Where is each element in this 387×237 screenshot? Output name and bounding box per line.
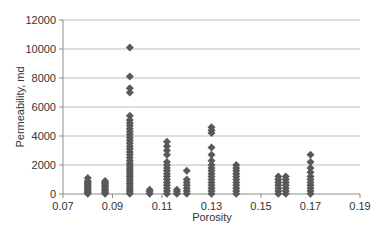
data-point-diamond (126, 84, 134, 92)
y-tick-label: 4000 (32, 130, 56, 142)
y-tick-label: 12000 (25, 14, 56, 26)
x-tick-label: 0.19 (349, 200, 370, 212)
y-tick-label: 6000 (32, 101, 56, 113)
x-tick-label: 0.17 (300, 200, 321, 212)
x-tick-label: 0.07 (52, 200, 73, 212)
data-point-diamond (163, 138, 171, 146)
horizontal-gridlines (63, 20, 360, 165)
data-point-diamond (126, 73, 134, 81)
data-points (84, 44, 315, 198)
y-tick-label: 8000 (32, 72, 56, 84)
x-tick-label: 0.15 (250, 200, 271, 212)
y-axis-tick-labels: 020004000600080001000012000 (25, 14, 56, 200)
x-tick-label: 0.11 (152, 200, 173, 212)
y-tick-label: 2000 (32, 159, 56, 171)
data-point-diamond (183, 167, 191, 175)
scatter-chart: 020004000600080001000012000 0.070.090.11… (0, 0, 387, 237)
y-tick-label: 0 (50, 188, 56, 200)
x-axis-title: Porosity (192, 211, 232, 223)
data-point-diamond (126, 44, 134, 52)
x-tick-label: 0.09 (102, 200, 123, 212)
y-tick-label: 10000 (25, 43, 56, 55)
data-point-diamond (208, 151, 216, 159)
y-axis-title: Permeability, md (14, 66, 26, 147)
data-point-diamond (126, 112, 134, 120)
data-point-diamond (208, 144, 216, 152)
data-point-diamond (307, 151, 315, 159)
